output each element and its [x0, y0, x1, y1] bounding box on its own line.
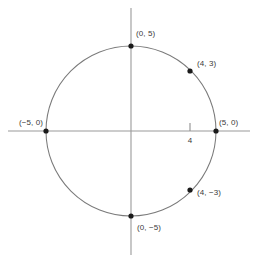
data-point-0-neg5	[128, 213, 133, 218]
data-point-0-5	[128, 43, 133, 48]
point-label-neg5-0: (−5, 0)	[19, 118, 43, 128]
circle-plot-figure: (0, 5) (4, 3) (5, 0) (4, −3) (−5, 0) (0,…	[0, 0, 257, 262]
point-label-4-3: (4, 3)	[197, 59, 216, 69]
x-axis-tick-label-4: 4	[188, 136, 192, 146]
plot-canvas	[0, 0, 257, 262]
point-label-5-0: (5, 0)	[219, 118, 238, 128]
data-point-4-neg3	[187, 187, 192, 192]
data-point-5-0	[213, 128, 218, 133]
point-label-0-neg5: (0, −5)	[137, 223, 161, 233]
data-point-neg5-0	[43, 128, 48, 133]
point-label-4-neg3: (4, −3)	[197, 188, 221, 198]
data-point-4-3	[187, 68, 192, 73]
point-label-0-5: (0, 5)	[136, 29, 155, 39]
